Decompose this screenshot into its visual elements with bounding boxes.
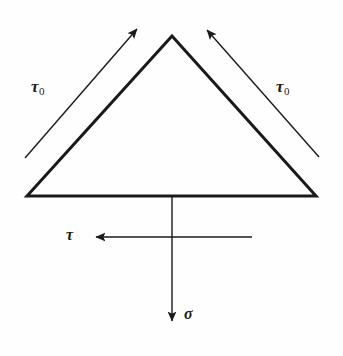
tau-zero-left-symbol: τ (31, 77, 39, 96)
tau-zero-right-subscript: 0 (284, 85, 290, 97)
tau-symbol: τ (66, 226, 73, 243)
label-tau-zero-left: τ0 (31, 78, 45, 97)
figure-svg (0, 0, 343, 356)
wedge-triangle (27, 36, 316, 196)
figure-canvas: τ0 τ0 τ σ (0, 0, 343, 356)
tau-zero-left-subscript: 0 (39, 85, 45, 97)
label-sigma: σ (184, 306, 193, 322)
sigma-symbol: σ (184, 305, 193, 322)
label-tau-zero-right: τ0 (276, 78, 290, 97)
label-tau: τ (66, 227, 73, 243)
tau-zero-right-symbol: τ (276, 77, 284, 96)
